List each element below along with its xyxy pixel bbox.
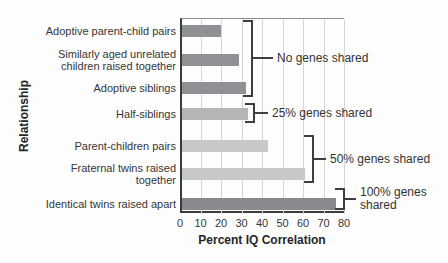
category-label-1: Similarly aged unrelated children raised… xyxy=(0,48,176,72)
category-label-0: Adoptive parent-child pairs xyxy=(0,25,176,37)
annotation-connector-1 xyxy=(255,112,268,114)
annotation-connector-3 xyxy=(345,198,356,200)
gridline-40 xyxy=(262,19,263,214)
annotation-label-1: 25% genes shared xyxy=(272,107,372,120)
annotation-bracket-2 xyxy=(304,135,314,183)
annotation-connector-2 xyxy=(314,158,326,160)
x-axis-title: Percent IQ Correlation xyxy=(180,233,344,247)
category-label-2: Adoptive siblings xyxy=(0,82,176,94)
bar-1 xyxy=(182,54,239,66)
annotation-bracket-3 xyxy=(335,188,345,210)
annotation-label-0: No genes shared xyxy=(277,52,368,65)
category-label-4: Parent-children pairs xyxy=(0,140,176,152)
bar-6 xyxy=(182,198,336,210)
annotation-bracket-1 xyxy=(245,103,255,123)
category-label-5: Fraternal twins raised together xyxy=(0,162,176,186)
category-label-6: Identical twins raised apart xyxy=(0,198,176,210)
annotation-label-2: 50% genes shared xyxy=(330,153,430,166)
bar-5 xyxy=(182,168,305,180)
x-tick-label-80: 80 xyxy=(332,217,356,229)
annotation-bracket-0 xyxy=(243,20,253,97)
iq-correlation-bar-chart: Relationship Adoptive parent-child pairs… xyxy=(0,0,448,263)
annotation-label-3: 100% genes shared xyxy=(360,186,427,212)
bar-3 xyxy=(182,108,248,120)
bar-4 xyxy=(182,140,268,152)
annotation-connector-0 xyxy=(253,57,273,59)
bar-0 xyxy=(182,25,221,37)
category-label-3: Half-siblings xyxy=(0,108,176,120)
bar-2 xyxy=(182,82,246,94)
